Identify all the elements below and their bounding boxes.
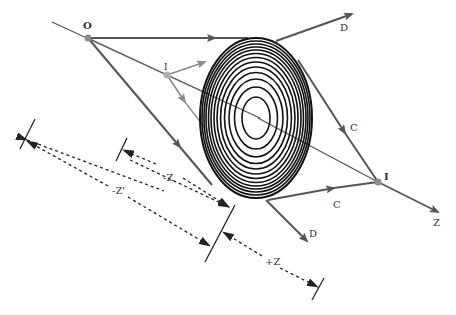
label-real-image: I — [384, 171, 389, 182]
label-axis-z: Z — [433, 217, 440, 228]
label-dim-neg-z-prime: -Z' — [112, 185, 125, 196]
object-point — [85, 35, 92, 42]
real-image-point — [375, 179, 382, 186]
zone-plate-diagram: O I I D D C C Z -Z -Z' +Z — [0, 0, 456, 315]
label-converging-bottom: C — [333, 199, 341, 210]
label-converging-top: C — [350, 122, 358, 133]
label-object-point: O — [83, 20, 92, 31]
label-diverging-top: D — [340, 22, 348, 33]
virtual-image-point — [164, 72, 171, 79]
label-diverging-bottom: D — [309, 228, 317, 239]
label-dim-neg-z: -Z — [163, 172, 173, 183]
zone-plate-lens — [200, 38, 312, 198]
label-dim-pos-z: +Z — [265, 256, 280, 267]
dimension-lines — [20, 119, 324, 300]
label-virtual-image: I — [164, 62, 168, 72]
